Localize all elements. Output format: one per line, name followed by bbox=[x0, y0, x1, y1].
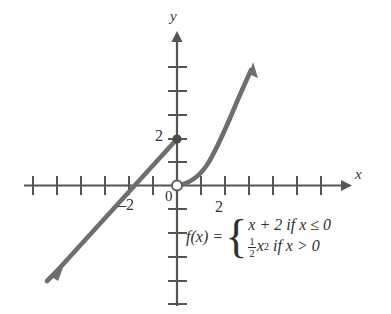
graph-canvas bbox=[0, 0, 391, 314]
x-tick-label-neg2: –2 bbox=[118, 196, 134, 214]
formula-function-name: f(x) bbox=[186, 228, 208, 246]
quadratic-branch-curve bbox=[177, 62, 258, 186]
open-point-marker bbox=[172, 181, 182, 191]
formula-cases: x + 2 if x ≤ 0 1 2 x2 if x > 0 bbox=[248, 216, 331, 258]
formula-case-2-variable: x bbox=[257, 237, 264, 256]
closed-point-marker bbox=[172, 134, 181, 143]
x-tick-label-pos2: 2 bbox=[215, 198, 223, 216]
formula-brace-icon: { bbox=[225, 220, 247, 253]
formula-case-1-expression: x + 2 bbox=[248, 216, 282, 235]
x-axis-label: x bbox=[355, 166, 362, 183]
x-axis-arrow-icon bbox=[341, 180, 352, 191]
origin-label: 0 bbox=[165, 188, 173, 205]
formula-case-2: 1 2 x2 if x > 0 bbox=[248, 235, 331, 258]
formula-case-2-condition: if x > 0 bbox=[273, 237, 320, 256]
formula-case-2-fraction: 1 2 bbox=[248, 236, 256, 259]
y-axis bbox=[168, 31, 187, 306]
x-axis bbox=[24, 176, 352, 195]
formula-case-2-denominator: 2 bbox=[248, 248, 256, 259]
linear-branch-curve bbox=[44, 139, 177, 283]
formula-equals-sign: = bbox=[213, 228, 222, 246]
formula-case-1: x + 2 if x ≤ 0 bbox=[248, 216, 331, 235]
y-axis-arrow-icon bbox=[172, 31, 183, 42]
piecewise-function-figure: y x 0 –2 2 2 f(x) = { x + 2 if x ≤ 0 1 2… bbox=[0, 0, 391, 314]
formula-case-1-condition: if x ≤ 0 bbox=[286, 216, 331, 235]
y-axis-label: y bbox=[170, 8, 177, 25]
y-tick-label-2: 2 bbox=[155, 127, 163, 145]
piecewise-formula: f(x) = { x + 2 if x ≤ 0 1 2 x2 if x > 0 bbox=[186, 216, 331, 258]
